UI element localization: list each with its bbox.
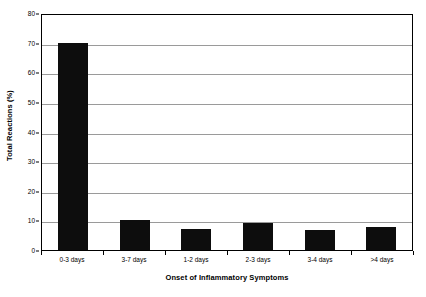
- x-axis-title: Onset of Inflammatory Symptoms: [41, 273, 413, 282]
- bar: [181, 229, 211, 250]
- x-axis-tick-label: >4 days: [351, 257, 413, 271]
- y-axis-tick-label: 50: [28, 100, 35, 107]
- bar-slot: [227, 15, 289, 250]
- plot-area: [41, 14, 413, 251]
- bar-slot: [42, 15, 104, 250]
- y-axis-tick-label: 70: [28, 40, 35, 47]
- x-axis-tick-mark: [351, 251, 352, 255]
- y-axis-tick-mark: [36, 43, 39, 44]
- x-axis-tick-mark: [227, 251, 228, 255]
- y-axis-tick-label: 10: [28, 218, 35, 225]
- y-axis-title-text: Total Reactions (%): [5, 90, 14, 161]
- y-axis-tick-mark: [36, 251, 39, 252]
- x-axis-tick-label: 1-2 days: [165, 257, 227, 271]
- bar-slot: [350, 15, 412, 250]
- bar: [58, 43, 88, 250]
- y-axis-tick-label: 0: [31, 248, 35, 255]
- y-axis-tick-mark: [36, 162, 39, 163]
- y-axis-tick-mark: [36, 132, 39, 133]
- y-axis-tick-label: 80: [28, 11, 35, 18]
- x-axis-tick-mark: [103, 251, 104, 255]
- bar-chart-figure: Total Reactions (%) 01020304050607080 0-…: [0, 0, 426, 297]
- y-axis-tick-mark: [36, 14, 39, 15]
- x-axis-tick-label: 3-7 days: [103, 257, 165, 271]
- bar: [243, 223, 273, 250]
- bar-slot: [104, 15, 166, 250]
- x-axis-tick-mark: [165, 251, 166, 255]
- bar: [366, 227, 396, 250]
- y-axis-tick-mark: [36, 102, 39, 103]
- y-axis-tick-label: 30: [28, 159, 35, 166]
- bar-slot: [289, 15, 351, 250]
- x-axis-tick-mark: [41, 251, 42, 255]
- y-axis-tick-label: 60: [28, 70, 35, 77]
- y-axis-tick-mark: [36, 221, 39, 222]
- y-axis-title: Total Reactions (%): [0, 0, 18, 251]
- y-axis-tick-label: 40: [28, 129, 35, 136]
- x-axis-tick-label: 0-3 days: [41, 257, 103, 271]
- y-axis-tick-labels: 01020304050607080: [18, 14, 39, 251]
- x-axis-tick-marks: [41, 251, 413, 256]
- x-axis-tick-label: 2-3 days: [227, 257, 289, 271]
- bar-series: [42, 15, 412, 250]
- bar-slot: [165, 15, 227, 250]
- y-axis-tick-mark: [36, 191, 39, 192]
- bar: [305, 230, 335, 250]
- bar: [120, 220, 150, 250]
- x-axis-tick-mark: [413, 251, 414, 255]
- x-axis-tick-mark: [289, 251, 290, 255]
- x-axis-tick-labels: 0-3 days3-7 days1-2 days2-3 days3-4 days…: [41, 257, 413, 271]
- y-axis-tick-label: 20: [28, 189, 35, 196]
- x-axis-tick-label: 3-4 days: [289, 257, 351, 271]
- y-axis-tick-mark: [36, 73, 39, 74]
